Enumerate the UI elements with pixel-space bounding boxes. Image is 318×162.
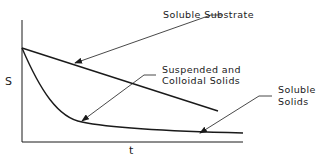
soluble-solids-label-1: Soluble bbox=[278, 84, 316, 95]
soluble-substrate-label: Soluble Substrate bbox=[163, 9, 254, 20]
suspended-solids-curve bbox=[22, 48, 243, 133]
x-axis-label: t bbox=[129, 145, 134, 156]
suspended-solids-leader bbox=[82, 75, 156, 121]
diagram-canvas bbox=[0, 0, 318, 162]
soluble-solids-label-2: Solids bbox=[278, 96, 309, 107]
soluble-solids-leader bbox=[200, 96, 272, 133]
y-axis-label: S bbox=[5, 76, 12, 87]
soluble-substrate-leader bbox=[75, 15, 223, 63]
suspended-solids-label-1: Suspended and bbox=[162, 64, 241, 75]
suspended-solids-label-2: Colloidal Solids bbox=[162, 75, 240, 86]
